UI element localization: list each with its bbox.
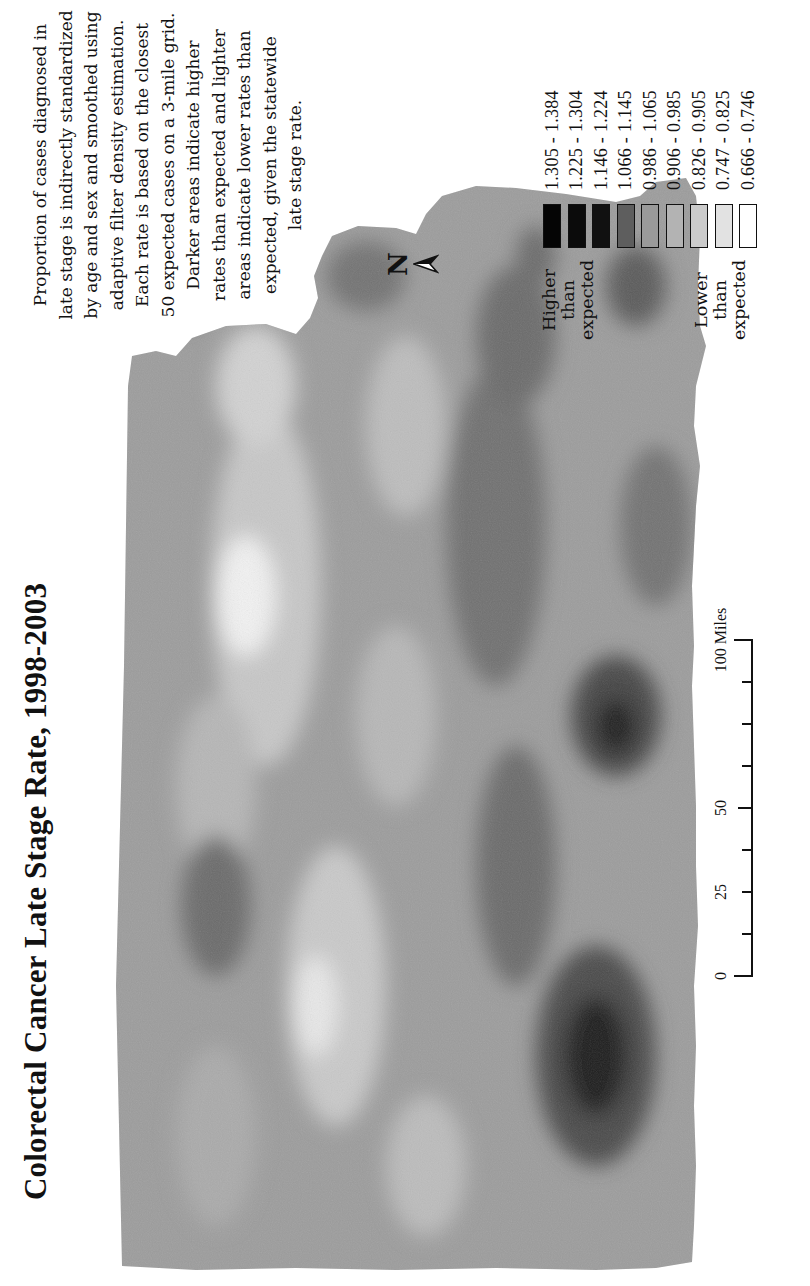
map-description: Proportion of cases diagnosed in late st… [28,0,309,330]
legend-swatch [568,204,586,248]
legend-row: 0.986 - 1.065 [638,90,663,248]
map-title: Colorectal Cancer Late Stage Rate, 1998-… [18,583,54,1200]
scale-tick-label: 0 [712,972,730,980]
legend-row: 1.146 - 1.224 [589,90,614,248]
description-line: Each rate is based on the closest [130,0,156,330]
legend-range-label: 1.305 - 1.384 [542,90,563,190]
legend-swatch [690,204,708,248]
description-line: areas indicate lower rates than [232,0,258,330]
legend-range-label: 0.747 - 0.825 [713,90,734,190]
scale-tick-label: 50 [712,800,730,816]
legend-swatch [592,204,610,248]
scale-bar: 0 25 50 100 Miles [712,620,762,980]
legend-lower-label: Lower than expected [692,250,749,350]
legend-range-label: 1.066 - 1.145 [615,90,636,190]
legend-swatch [666,204,684,248]
legend-row: 1.225 - 1.304 [565,90,590,248]
legend-label-text: expected [730,250,749,350]
legend-range-label: 0.826 - 0.905 [689,90,710,190]
description-line: Proportion of cases diagnosed in [28,0,54,330]
legend-row: 0.747 - 0.825 [712,90,737,248]
legend-label-text: Higher [540,250,559,350]
map-legend: Higher than expected Lower than expected… [540,0,770,350]
scale-tick-label: 25 [712,884,730,900]
description-line: late stage rate. [283,0,309,330]
legend-range-label: 0.986 - 1.065 [640,90,661,190]
legend-label-text: expected [578,250,597,350]
legend-range-label: 1.146 - 1.224 [591,90,612,190]
legend-range-label: 0.666 - 0.746 [738,90,759,190]
description-line: Darker areas indicate higher [181,0,207,330]
map-page: Colorectal Cancer Late Stage Rate, 1998-… [0,0,810,1286]
description-line: late stage is indirectly standardized [54,0,80,330]
description-line: expected, given the statewide [258,0,284,330]
legend-label-text: than [711,250,730,350]
legend-label-text: than [559,250,578,350]
legend-row: 0.666 - 0.746 [736,90,761,248]
legend-range-label: 0.906 - 0.985 [664,90,685,190]
legend-row: 1.066 - 1.145 [614,90,639,248]
description-line: adaptive filter density estimation. [105,0,131,330]
legend-row: 0.906 - 0.985 [663,90,688,248]
north-arrow: N [385,252,439,276]
legend-classes: 1.305 - 1.3841.225 - 1.3041.146 - 1.2241… [540,90,761,248]
legend-range-label: 1.225 - 1.304 [566,90,587,190]
legend-swatch [543,204,561,248]
description-line: by age and sex and smoothed using [79,0,105,330]
legend-row: 1.305 - 1.384 [540,90,565,248]
description-line: rates than expected and lighter [207,0,233,330]
legend-swatch [739,204,757,248]
description-line: 50 expected cases on a 3-mile grid. [156,0,182,330]
legend-label-text: Lower [692,250,711,350]
legend-swatch [641,204,659,248]
north-label: N [385,252,411,276]
scale-tick-label: 100 Miles [712,608,730,672]
legend-swatch [617,204,635,248]
legend-row: 0.826 - 0.905 [687,90,712,248]
north-arrow-icon [413,254,439,274]
legend-swatch [715,204,733,248]
legend-higher-label: Higher than expected [540,250,597,350]
scale-bar-graphic [730,635,756,980]
